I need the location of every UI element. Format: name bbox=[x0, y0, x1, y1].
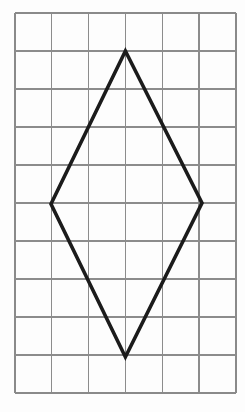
diagram-canvas bbox=[0, 0, 245, 412]
geometry-figure bbox=[0, 0, 245, 412]
